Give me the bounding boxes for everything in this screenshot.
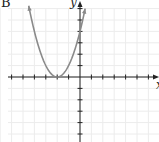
axes bbox=[8, 1, 159, 142]
y-axis-label: y bbox=[70, 0, 77, 9]
x-axis-label: x bbox=[156, 78, 159, 92]
parabola-chart bbox=[0, 0, 159, 142]
